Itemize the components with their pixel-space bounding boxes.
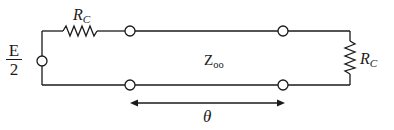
load-resistor-label-main: R	[360, 50, 370, 67]
load-resistor-label: RC	[360, 51, 377, 69]
top-right-terminal-icon	[278, 26, 288, 36]
line-impedance-label-sub: oo	[213, 59, 224, 70]
top-left-terminal-icon	[125, 26, 135, 36]
arrowhead-left-icon	[130, 100, 138, 107]
bottom-left-terminal-icon	[125, 80, 135, 90]
source-resistor-label: RC	[73, 7, 90, 25]
electrical-length-label: θ	[203, 108, 211, 125]
source-resistor-icon	[63, 26, 97, 36]
source-voltage-numerator: E	[6, 43, 22, 58]
line-impedance-label-main: Z	[204, 52, 213, 68]
source-resistor-label-sub: C	[83, 13, 90, 25]
load-resistor-icon	[345, 41, 355, 74]
arrowhead-right-icon	[277, 100, 285, 107]
bottom-right-terminal-icon	[278, 80, 288, 90]
source-voltage-denominator: 2	[6, 62, 22, 77]
circuit-schematic	[0, 0, 394, 130]
source-terminal-icon	[37, 56, 47, 66]
source-resistor-label-main: R	[73, 6, 83, 23]
source-voltage-label: E 2	[6, 43, 22, 77]
load-resistor-label-sub: C	[370, 57, 377, 69]
line-impedance-label: Zoo	[204, 53, 224, 70]
